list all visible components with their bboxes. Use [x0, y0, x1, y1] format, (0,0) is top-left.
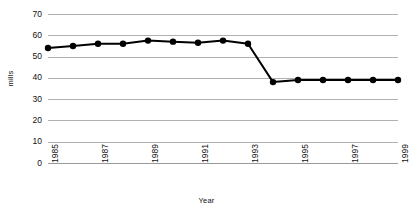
- y-tick-label: 70: [22, 10, 42, 19]
- x-tick-label: 1991: [201, 123, 210, 163]
- data-point: [395, 77, 401, 83]
- data-point: [70, 43, 76, 49]
- y-tick-label: 10: [22, 137, 42, 146]
- y-tick-label: 0: [22, 159, 42, 168]
- data-point: [145, 37, 151, 43]
- y-tick-label: 60: [22, 31, 42, 40]
- data-point: [270, 79, 276, 85]
- data-point: [170, 38, 176, 44]
- x-tick-label: 1989: [151, 123, 160, 163]
- data-point: [195, 40, 201, 46]
- line-chart: mills 010203040506070 198519871989199119…: [0, 0, 413, 217]
- data-point: [320, 77, 326, 83]
- data-point: [95, 41, 101, 47]
- x-axis-title: Year: [0, 196, 413, 205]
- y-tick-label: 40: [22, 73, 42, 82]
- x-tick-label: 1999: [401, 123, 410, 163]
- x-tick-label: 1997: [351, 123, 360, 163]
- y-tick-label: 20: [22, 116, 42, 125]
- data-point: [245, 41, 251, 47]
- data-point: [45, 45, 51, 51]
- series-line: [48, 41, 398, 83]
- data-point: [345, 77, 351, 83]
- series-markers: [45, 37, 401, 85]
- data-point: [220, 37, 226, 43]
- y-tick-label: 50: [22, 52, 42, 61]
- y-tick-label: 30: [22, 95, 42, 104]
- x-tick-label: 1993: [251, 123, 260, 163]
- data-point: [370, 77, 376, 83]
- data-point: [295, 77, 301, 83]
- data-point: [120, 41, 126, 47]
- x-tick-label: 1985: [51, 123, 60, 163]
- x-tick-label: 1995: [301, 123, 310, 163]
- y-axis-title: mills: [6, 57, 15, 101]
- x-tick-label: 1987: [101, 123, 110, 163]
- y-axis-tick-labels: 010203040506070: [22, 0, 42, 217]
